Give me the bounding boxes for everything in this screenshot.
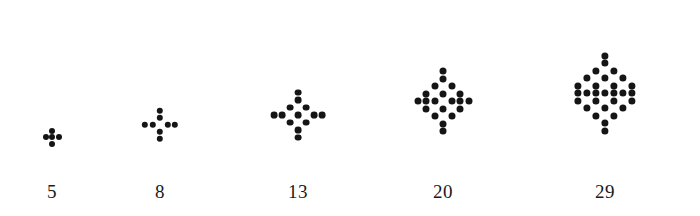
pattern-dot [619, 74, 626, 81]
pattern-dot [628, 97, 635, 104]
pattern-dot [610, 67, 617, 74]
pattern-dot [583, 74, 590, 81]
pattern-dot [601, 74, 608, 81]
pattern-dot [601, 89, 608, 96]
pattern-dot [619, 89, 626, 96]
dot-pattern-sequence-diagram: 58132029 [0, 0, 700, 216]
pattern-dot [619, 104, 626, 111]
pattern-dot [610, 89, 617, 96]
pattern-dot [628, 82, 635, 89]
pattern-dot [592, 82, 599, 89]
pattern-dot [592, 89, 599, 96]
pattern-dot [574, 89, 581, 96]
pattern-dot [601, 119, 608, 126]
pattern-dot [592, 112, 599, 119]
pattern-dot [628, 89, 635, 96]
pattern-dot [592, 97, 599, 104]
pattern-dot [574, 82, 581, 89]
pattern-dot [601, 104, 608, 111]
figure-count-label: 29 [595, 182, 615, 201]
pattern-dot [592, 67, 599, 74]
pattern-dot [583, 104, 590, 111]
pattern-dot [574, 97, 581, 104]
pattern-dot [610, 82, 617, 89]
pattern-dot [610, 112, 617, 119]
pattern-dot [601, 59, 608, 66]
pattern-dot [601, 127, 608, 134]
pattern-dot [610, 97, 617, 104]
pattern-dot [583, 89, 590, 96]
pattern-dot [601, 52, 608, 59]
figure-5: 29 [0, 0, 700, 216]
